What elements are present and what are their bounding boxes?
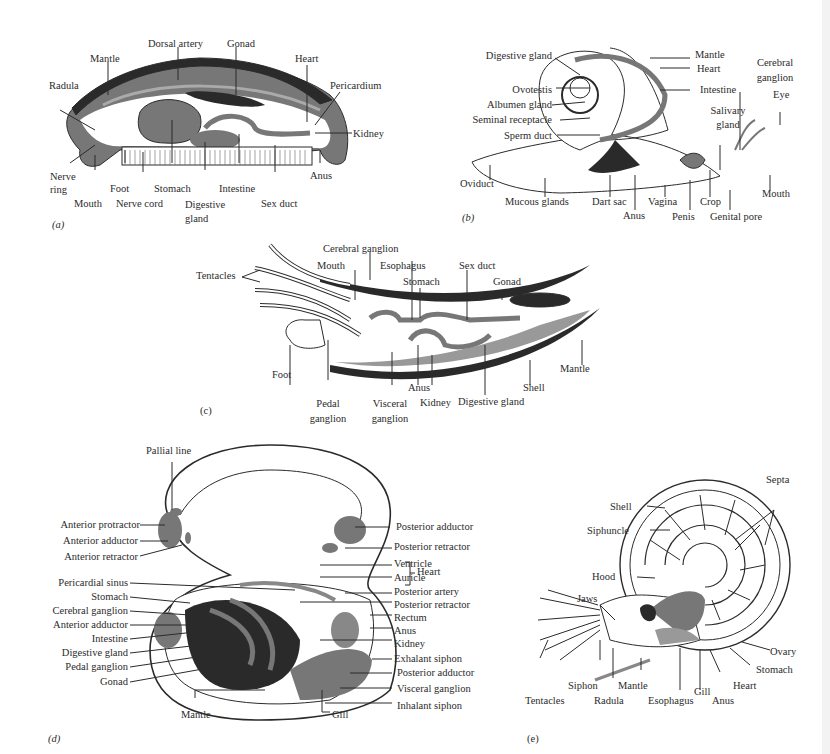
- label-b-mantle: Mantle: [695, 49, 725, 61]
- label-e-ovary: Ovary: [770, 646, 796, 658]
- label-e-siphuncle: Siphuncle: [587, 525, 629, 537]
- label-d-anterior-adductor: Anterior adductor: [30, 619, 128, 631]
- label-e-esophagus: Esophagus: [648, 695, 694, 707]
- label-a-heart: Heart: [295, 53, 318, 65]
- panel-a-tag: (a): [52, 219, 64, 230]
- panel-a-chiton-drawing: [60, 47, 352, 172]
- label-e-jaws: Jaws: [577, 593, 597, 605]
- panel-c-tag: (c): [200, 405, 212, 416]
- label-d-anterior-adductor-top: Anterior adductor: [30, 535, 138, 547]
- label-c-gonad: Gonad: [493, 276, 521, 288]
- label-d-visceral-ganglion: Visceral ganglion: [397, 683, 471, 695]
- label-d-digestive-gland: Digestive gland: [30, 647, 128, 659]
- label-d-mantle: Mantle: [181, 709, 211, 721]
- label-a-mantle: Mantle: [90, 53, 120, 65]
- panel-e-tag: (e): [527, 733, 539, 744]
- label-d-gonad: Gonad: [30, 676, 128, 688]
- label-a-radula: Radula: [49, 80, 79, 92]
- label-d-anterior-retractor: Anterior retractor: [30, 551, 138, 563]
- label-a-pericardium: Pericardium: [330, 80, 381, 92]
- label-b-dart-sac: Dart sac: [592, 196, 627, 208]
- label-d-cerebral-ganglion: Cerebral ganglion: [30, 605, 128, 617]
- label-b-albumen-gland: Albumen gland: [450, 99, 552, 111]
- label-e-radula: Radula: [594, 695, 624, 707]
- label-c-tentacles: Tentacles: [196, 270, 236, 282]
- label-a-sex-duct: Sex duct: [261, 198, 297, 210]
- label-c-mantle: Mantle: [560, 363, 590, 375]
- label-d-anus: Anus: [394, 625, 416, 637]
- label-b-heart: Heart: [697, 63, 720, 75]
- label-d-posterior-adductor: Posterior adductor: [397, 667, 474, 679]
- label-b-oviduct: Oviduct: [460, 178, 494, 190]
- label-c-shell: Shell: [523, 382, 545, 394]
- label-b-intestine: Intestine: [700, 84, 736, 96]
- panel-d-clam-drawing: [130, 445, 415, 720]
- label-e-stomach: Stomach: [756, 664, 793, 676]
- label-c-kidney: Kidney: [420, 397, 451, 409]
- label-e-shell: Shell: [610, 501, 632, 513]
- label-b-genital-pore: Genital pore: [710, 211, 762, 223]
- label-a-anus: Anus: [310, 170, 332, 182]
- label-a-digestive-gland: Digestive gland: [185, 198, 235, 226]
- label-a-kidney: Kidney: [353, 128, 384, 140]
- label-d-stomach: Stomach: [30, 591, 128, 603]
- label-b-eye: Eye: [773, 89, 789, 101]
- label-b-sperm-duct: Sperm duct: [460, 130, 552, 142]
- label-b-ovotestis: Ovotestis: [460, 84, 552, 96]
- panel-b-tag: (b): [462, 212, 474, 223]
- label-c-pedal-ganglion: Pedal ganglion: [305, 396, 351, 426]
- label-d-posterior-artery: Posterior artery: [394, 586, 459, 598]
- panel-e-nautilus-drawing: [538, 480, 790, 690]
- label-e-anus: Anus: [712, 695, 734, 707]
- label-d-rectum: Rectum: [394, 612, 427, 624]
- label-b-anus: Anus: [623, 210, 645, 222]
- label-a-stomach: Stomach: [154, 183, 191, 195]
- label-b-vagina: Vagina: [648, 196, 677, 208]
- label-e-tentacles: Tentacles: [525, 695, 565, 707]
- label-b-penis: Penis: [672, 211, 695, 223]
- label-d-pedal-ganglion: Pedal ganglion: [30, 661, 128, 673]
- label-d-posterior-retractor-top: Posterior retractor: [394, 541, 470, 553]
- label-d-pericardial-sinus: Pericardial sinus: [30, 577, 128, 589]
- label-b-mouth: Mouth: [762, 188, 790, 200]
- label-e-siphon: Siphon: [568, 680, 598, 692]
- label-b-mucous-glands: Mucous glands: [505, 196, 569, 208]
- label-a-gonad: Gonad: [227, 38, 255, 50]
- label-e-mantle: Mantle: [618, 680, 648, 692]
- label-c-anus: Anus: [408, 382, 430, 394]
- label-b-salivary-gland: Salivary gland: [703, 104, 753, 132]
- label-d-pallial-line: Pallial line: [146, 445, 191, 457]
- label-a-intestine: Intestine: [219, 183, 255, 195]
- label-b-digestive-gland: Digestive gland: [460, 50, 552, 62]
- label-a-nerve-cord: Nerve cord: [116, 198, 163, 210]
- label-c-visceral-ganglion: Visceral ganglion: [365, 396, 415, 426]
- label-c-cerebral-ganglion: Cerebral ganglion: [323, 243, 399, 255]
- label-a-mouth: Mouth: [74, 198, 102, 210]
- label-c-mouth: Mouth: [317, 260, 345, 272]
- label-d-anterior-protractor: Anterior protractor: [30, 519, 140, 531]
- label-e-gill: Gill: [694, 686, 710, 698]
- label-d-kidney: Kidney: [394, 638, 425, 650]
- label-a-dorsal-artery: Dorsal artery: [148, 38, 203, 50]
- label-a-foot: Foot: [110, 183, 129, 195]
- label-b-seminal-receptacle: Seminal receptacle: [440, 114, 552, 126]
- label-d-heart: Heart: [417, 566, 440, 578]
- label-c-sex-duct: Sex duct: [459, 260, 495, 272]
- label-d-exhalant-siphon: Exhalant siphon: [394, 653, 462, 665]
- label-e-hood: Hood: [592, 571, 615, 583]
- label-d-posterior-retractor: Posterior retractor: [394, 599, 470, 611]
- label-a-nerve-ring: Nerve ring: [50, 170, 80, 196]
- label-d-inhalant-siphon: Inhalant siphon: [397, 700, 462, 712]
- panel-d-tag: (d): [48, 733, 60, 744]
- label-d-intestine: Intestine: [30, 633, 128, 645]
- label-c-digestive-gland: Digestive gland: [458, 396, 524, 408]
- label-e-septa: Septa: [766, 474, 789, 486]
- label-d-posterior-adductor-top: Posterior adductor: [396, 521, 473, 533]
- label-d-gill: Gill: [332, 709, 348, 721]
- label-b-crop: Crop: [700, 196, 721, 208]
- label-b-cerebral-ganglion: Cerebral ganglion: [740, 55, 810, 85]
- label-c-esophagus: Esophagus: [380, 260, 426, 272]
- label-c-stomach: Stomach: [403, 276, 440, 288]
- label-e-heart: Heart: [733, 680, 756, 692]
- label-c-foot: Foot: [272, 369, 291, 381]
